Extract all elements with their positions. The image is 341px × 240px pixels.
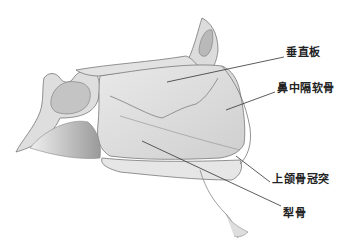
label-vomer: 犁骨: [283, 204, 306, 220]
label-maxillary-crest: 上颌骨冠突: [272, 170, 330, 186]
septum-body: [98, 65, 245, 159]
label-perpendicular-plate: 垂直板: [286, 43, 321, 59]
label-septal-cartilage: 鼻中隔软骨: [277, 79, 335, 95]
hard-palate: [102, 158, 242, 180]
